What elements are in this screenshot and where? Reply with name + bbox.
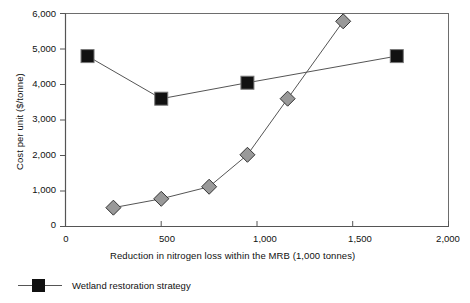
x-tick-marks: [66, 221, 449, 227]
data-point-diamond-0: [106, 200, 121, 215]
plot-frame: [66, 14, 449, 227]
data-point-square-1: [155, 92, 168, 105]
data-point-square-3: [390, 50, 403, 63]
chart-legend: Wetland restoration strategy: [18, 280, 191, 291]
series-lines: [88, 21, 397, 207]
y-tick-marks: [60, 14, 66, 227]
data-point-diamond-2: [202, 179, 217, 194]
data-point-square-0: [81, 50, 94, 63]
series-line-1: [113, 21, 343, 207]
legend-label-wetland: Wetland restoration strategy: [72, 280, 191, 291]
data-point-diamond-3: [240, 147, 255, 162]
data-point-square-2: [241, 76, 254, 89]
chart-figure: Cost per unit ($/tonne) Reduction in nit…: [0, 0, 470, 303]
data-point-diamond-1: [154, 191, 169, 206]
data-point-diamond-5: [336, 14, 351, 29]
series-markers: [81, 14, 403, 215]
legend-line-wetland: [18, 285, 62, 286]
plot-area: [0, 0, 470, 260]
data-point-diamond-4: [280, 91, 295, 106]
legend-square-marker-icon: [32, 279, 45, 292]
